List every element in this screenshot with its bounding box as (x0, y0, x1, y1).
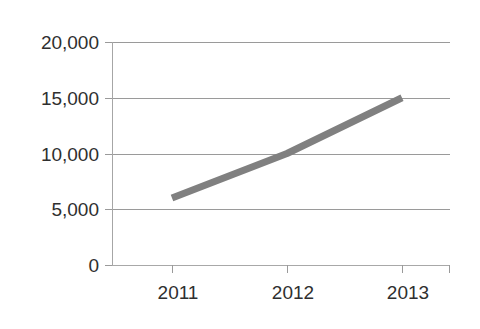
series-layer (0, 0, 480, 329)
line-chart: 20,000 15,000 10,000 5,000 0 2011 2012 2… (0, 0, 480, 329)
data-series-line (172, 98, 402, 198)
